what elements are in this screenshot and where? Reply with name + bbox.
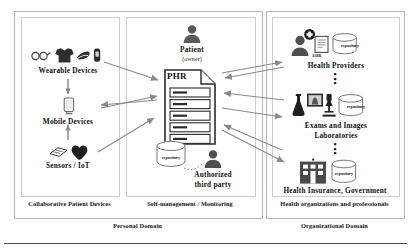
tshirt-icon [55, 48, 73, 62]
wearable-devices-icon-group [30, 46, 102, 64]
phr-repository-icon [155, 140, 187, 168]
person-icon [184, 25, 200, 43]
flask-icon [292, 94, 304, 116]
sensors-iot-label: Sensors / IoT [18, 161, 118, 170]
providers-to-phr-arrow [225, 67, 284, 78]
phr-to-labs-arrow [222, 108, 282, 117]
third-party-label-line1: Authorized [178, 170, 248, 179]
phr-to-providers-arrow [222, 62, 282, 73]
patient-icon-group [182, 24, 202, 44]
labs-to-phr-arrow [224, 93, 284, 100]
microscope-icon [323, 94, 336, 117]
labs-repository-label: repository [340, 104, 372, 109]
person-with-medical-cross-icon [292, 29, 315, 56]
xray-image-icon [307, 94, 323, 107]
shoe-icon [77, 52, 90, 60]
diagram-canvas: Personal Domain Organizational Domain Co… [0, 0, 411, 249]
third-party-label-line2: third party [178, 180, 248, 189]
glasses-icon [32, 52, 51, 59]
database-cylinder-icon [157, 141, 185, 166]
mobile-devices-icon-group [60, 96, 78, 116]
providers-to-labs-ellipsis: ••• [330, 72, 340, 86]
phr-title: PHR [167, 72, 197, 81]
wearable-devices-label: Wearable Devices [18, 66, 118, 75]
insurance-label: Health Insurance, Government [272, 186, 398, 195]
wristband-icon [94, 49, 100, 62]
labs-to-insurance-ellipsis: ••• [330, 142, 340, 156]
phr-to-mobile-arrow [101, 100, 157, 105]
patient-sublabel: (owner) [152, 55, 232, 62]
person-icon [205, 150, 221, 168]
patient-label: Patient [152, 45, 232, 54]
insurance-repository-label: repository [328, 171, 360, 176]
chip-sensor-icon [50, 148, 67, 157]
heart-icon [72, 145, 88, 160]
providers-repository-label: repository [334, 43, 366, 48]
sensors-iot-icon-group [48, 143, 90, 161]
labs-label-line1: Exams and Images [280, 121, 392, 130]
ehr-document-icon [315, 36, 328, 52]
mobile-devices-label: Mobile Devices [18, 117, 118, 126]
phr-repository-label: repository [155, 155, 187, 160]
phr-to-insurance-arrow [222, 130, 284, 162]
bottom-divider [4, 243, 407, 244]
phr-record-rows [170, 88, 210, 143]
building-icon [300, 159, 326, 184]
ehr-label: EHR [307, 53, 327, 58]
third-party-icon-group [203, 149, 223, 169]
